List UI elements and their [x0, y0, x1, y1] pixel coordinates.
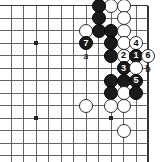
white-stone[interactable] [117, 11, 131, 25]
white-stone[interactable] [79, 99, 93, 113]
white-stone[interactable]: 4 [129, 36, 143, 50]
move-number: 3 [121, 63, 126, 72]
black-stone[interactable] [129, 86, 143, 100]
move-number: 7 [83, 38, 88, 47]
point-label-b: b [141, 61, 155, 75]
white-stone[interactable] [104, 99, 118, 113]
move-number: 6 [145, 51, 150, 60]
white-stone[interactable] [104, 0, 118, 13]
black-stone[interactable] [104, 49, 118, 63]
move-number: 4 [133, 38, 138, 47]
black-stone[interactable] [92, 11, 106, 25]
go-board-diagram: 7421635ab [0, 0, 160, 162]
black-stone[interactable] [104, 36, 118, 50]
white-stone[interactable] [117, 124, 131, 138]
move-number: 5 [133, 76, 138, 85]
move-number: 2 [121, 51, 126, 60]
move-number: 1 [133, 51, 138, 60]
point-label-a: a [79, 49, 93, 63]
stone-layer: 7421635ab [0, 0, 160, 162]
white-stone[interactable] [117, 99, 131, 113]
black-stone[interactable] [104, 86, 118, 100]
